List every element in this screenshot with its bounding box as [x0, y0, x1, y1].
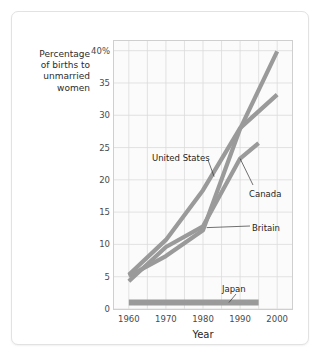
plot-area [113, 40, 293, 310]
y-tick-0: 0 [84, 304, 110, 314]
x-tick-2000: 2000 [259, 314, 295, 324]
x-tick-1990: 1990 [222, 314, 258, 324]
series-label-canada: Canada [249, 189, 281, 199]
x-axis-tick-labels: 19601970198019902000 [113, 314, 293, 328]
y-tick-40: 40% [84, 46, 110, 56]
y-tick-20: 20 [84, 175, 110, 185]
y-tick-25: 25 [84, 143, 110, 153]
x-axis-title: Year [113, 329, 293, 340]
x-tick-1980: 1980 [185, 314, 221, 324]
x-tick-1970: 1970 [148, 314, 184, 324]
y-axis-tick-labels: 0510152025303540% [80, 40, 110, 310]
figure-card: Percentage of births to unmarried women … [11, 11, 309, 345]
y-tick-5: 5 [84, 272, 110, 282]
chart-plot-svg [114, 41, 292, 309]
y-tick-15: 15 [84, 207, 110, 217]
series-label-japan: Japan [222, 284, 246, 294]
series-label-united-states: United States [152, 153, 210, 163]
y-tick-30: 30 [84, 110, 110, 120]
series-label-britain: Britain [252, 223, 280, 233]
y-tick-35: 35 [84, 78, 110, 88]
x-tick-1960: 1960 [111, 314, 147, 324]
y-tick-10: 10 [84, 239, 110, 249]
